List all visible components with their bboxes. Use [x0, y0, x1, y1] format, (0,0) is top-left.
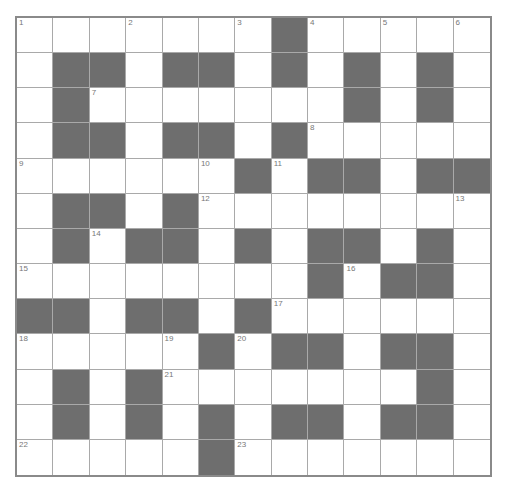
letter-cell[interactable] — [90, 299, 126, 334]
letter-cell[interactable] — [126, 159, 162, 194]
letter-cell[interactable] — [308, 53, 344, 88]
letter-cell[interactable] — [272, 88, 308, 123]
letter-cell[interactable]: 9 — [17, 159, 53, 194]
letter-cell[interactable]: 7 — [90, 88, 126, 123]
letter-cell[interactable] — [381, 123, 417, 158]
letter-cell[interactable] — [344, 440, 380, 475]
letter-cell[interactable] — [163, 264, 199, 299]
letter-cell[interactable] — [199, 18, 235, 53]
letter-cell[interactable]: 22 — [17, 440, 53, 475]
letter-cell[interactable]: 13 — [454, 194, 490, 229]
letter-cell[interactable] — [126, 440, 162, 475]
letter-cell[interactable]: 8 — [308, 123, 344, 158]
letter-cell[interactable] — [235, 194, 271, 229]
letter-cell[interactable]: 2 — [126, 18, 162, 53]
letter-cell[interactable] — [235, 123, 271, 158]
letter-cell[interactable]: 21 — [163, 370, 199, 405]
letter-cell[interactable] — [417, 299, 453, 334]
letter-cell[interactable] — [454, 88, 490, 123]
letter-cell[interactable] — [381, 88, 417, 123]
letter-cell[interactable]: 14 — [90, 229, 126, 264]
letter-cell[interactable] — [454, 334, 490, 369]
letter-cell[interactable] — [381, 370, 417, 405]
letter-cell[interactable] — [235, 264, 271, 299]
letter-cell[interactable] — [381, 194, 417, 229]
letter-cell[interactable] — [235, 405, 271, 440]
letter-cell[interactable] — [17, 229, 53, 264]
letter-cell[interactable] — [53, 440, 89, 475]
letter-cell[interactable] — [126, 88, 162, 123]
letter-cell[interactable]: 17 — [272, 299, 308, 334]
letter-cell[interactable] — [53, 18, 89, 53]
letter-cell[interactable] — [344, 123, 380, 158]
letter-cell[interactable] — [90, 440, 126, 475]
letter-cell[interactable] — [454, 53, 490, 88]
letter-cell[interactable] — [381, 159, 417, 194]
letter-cell[interactable] — [344, 18, 380, 53]
letter-cell[interactable] — [308, 370, 344, 405]
letter-cell[interactable] — [53, 264, 89, 299]
letter-cell[interactable] — [90, 159, 126, 194]
letter-cell[interactable] — [454, 299, 490, 334]
letter-cell[interactable] — [17, 53, 53, 88]
letter-cell[interactable] — [235, 88, 271, 123]
letter-cell[interactable]: 4 — [308, 18, 344, 53]
letter-cell[interactable] — [308, 299, 344, 334]
letter-cell[interactable] — [17, 194, 53, 229]
letter-cell[interactable] — [90, 18, 126, 53]
letter-cell[interactable] — [454, 264, 490, 299]
letter-cell[interactable] — [163, 88, 199, 123]
letter-cell[interactable] — [344, 370, 380, 405]
letter-cell[interactable] — [199, 299, 235, 334]
letter-cell[interactable] — [199, 264, 235, 299]
letter-cell[interactable] — [381, 440, 417, 475]
letter-cell[interactable] — [126, 334, 162, 369]
letter-cell[interactable]: 23 — [235, 440, 271, 475]
letter-cell[interactable] — [90, 370, 126, 405]
letter-cell[interactable] — [417, 18, 453, 53]
letter-cell[interactable]: 12 — [199, 194, 235, 229]
letter-cell[interactable] — [344, 194, 380, 229]
letter-cell[interactable] — [454, 229, 490, 264]
letter-cell[interactable] — [272, 264, 308, 299]
letter-cell[interactable] — [454, 440, 490, 475]
letter-cell[interactable]: 3 — [235, 18, 271, 53]
letter-cell[interactable] — [381, 229, 417, 264]
letter-cell[interactable] — [17, 88, 53, 123]
letter-cell[interactable] — [126, 53, 162, 88]
letter-cell[interactable] — [199, 229, 235, 264]
letter-cell[interactable] — [126, 264, 162, 299]
letter-cell[interactable] — [417, 440, 453, 475]
letter-cell[interactable]: 18 — [17, 334, 53, 369]
letter-cell[interactable] — [272, 229, 308, 264]
letter-cell[interactable] — [272, 440, 308, 475]
letter-cell[interactable]: 20 — [235, 334, 271, 369]
letter-cell[interactable] — [17, 123, 53, 158]
letter-cell[interactable] — [454, 370, 490, 405]
letter-cell[interactable] — [235, 53, 271, 88]
letter-cell[interactable] — [17, 370, 53, 405]
letter-cell[interactable] — [199, 370, 235, 405]
letter-cell[interactable] — [454, 405, 490, 440]
letter-cell[interactable] — [199, 88, 235, 123]
letter-cell[interactable] — [344, 334, 380, 369]
letter-cell[interactable] — [163, 405, 199, 440]
letter-cell[interactable] — [126, 123, 162, 158]
letter-cell[interactable] — [381, 299, 417, 334]
letter-cell[interactable]: 1 — [17, 18, 53, 53]
letter-cell[interactable] — [308, 88, 344, 123]
letter-cell[interactable] — [163, 18, 199, 53]
letter-cell[interactable] — [308, 194, 344, 229]
letter-cell[interactable] — [454, 123, 490, 158]
letter-cell[interactable] — [417, 194, 453, 229]
letter-cell[interactable]: 15 — [17, 264, 53, 299]
letter-cell[interactable] — [90, 264, 126, 299]
letter-cell[interactable]: 16 — [344, 264, 380, 299]
letter-cell[interactable] — [344, 299, 380, 334]
letter-cell[interactable] — [272, 370, 308, 405]
letter-cell[interactable]: 11 — [272, 159, 308, 194]
letter-cell[interactable] — [126, 194, 162, 229]
letter-cell[interactable] — [163, 159, 199, 194]
letter-cell[interactable] — [90, 334, 126, 369]
letter-cell[interactable]: 5 — [381, 18, 417, 53]
